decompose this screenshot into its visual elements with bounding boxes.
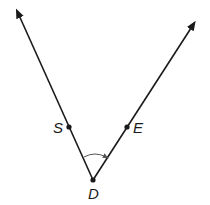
- angle-diagram: S E D: [0, 0, 210, 205]
- label-d: D: [88, 185, 99, 202]
- point-e: [124, 124, 129, 129]
- label-s: S: [53, 119, 63, 136]
- point-d: [90, 177, 95, 182]
- label-e: E: [133, 119, 144, 136]
- ray-ds: [18, 13, 93, 180]
- point-s: [66, 124, 71, 129]
- angle-arc: [84, 154, 106, 157]
- ray-de: [93, 25, 193, 180]
